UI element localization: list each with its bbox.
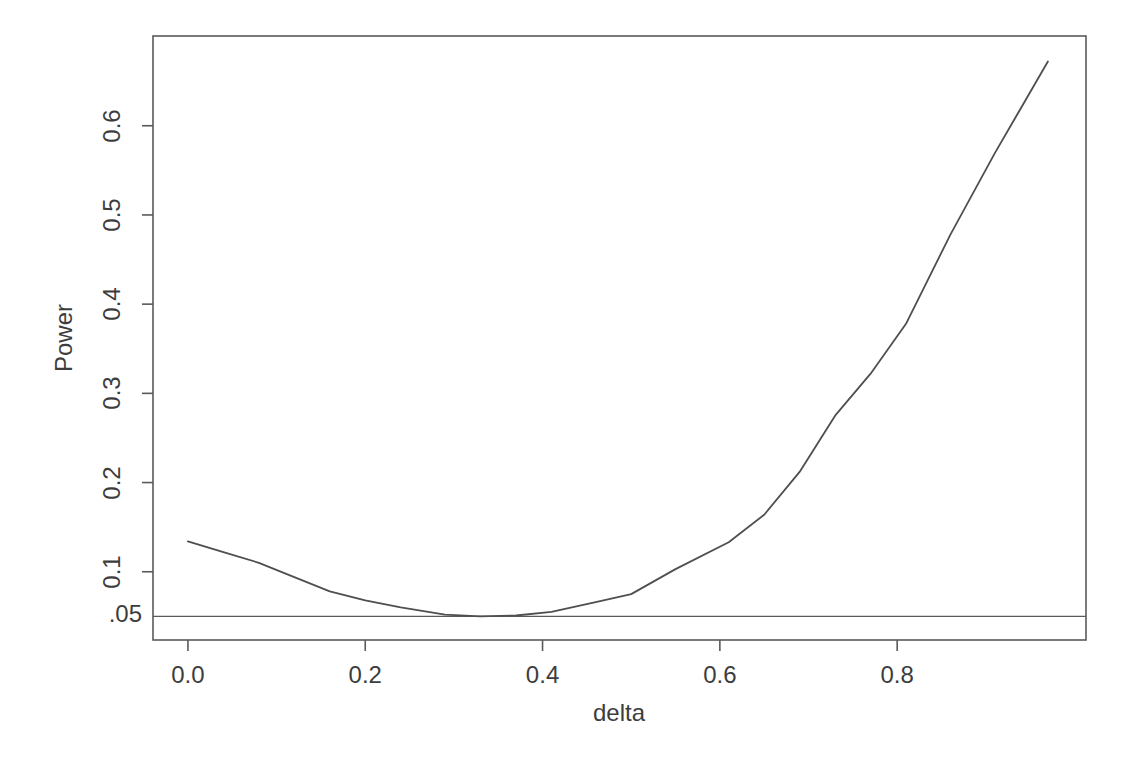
- x-tick-label: 0.6: [703, 663, 736, 687]
- series-line-power-curve: [188, 62, 1048, 617]
- y-axis-title: Power: [52, 304, 76, 372]
- power-vs-delta-figure: Power delta .05 0.00.20.40.60.80.10.20.3…: [0, 0, 1136, 765]
- y-tick-label: 0.6: [100, 109, 124, 142]
- y-tick-label: 0.1: [100, 555, 124, 588]
- x-tick-label: 0.2: [349, 663, 382, 687]
- y-tick-label: 0.4: [100, 287, 124, 320]
- y-tick-label: 0.5: [100, 198, 124, 231]
- x-tick-label: 0.4: [526, 663, 559, 687]
- reference-line-label: .05: [109, 602, 142, 626]
- y-tick-label: 0.3: [100, 377, 124, 410]
- x-tick-label: 0.8: [880, 663, 913, 687]
- plot-canvas: [0, 0, 1136, 765]
- plot-border: [153, 36, 1086, 640]
- x-tick-label: 0.0: [171, 663, 204, 687]
- y-tick-label: 0.2: [100, 466, 124, 499]
- x-axis-title: delta: [593, 701, 645, 725]
